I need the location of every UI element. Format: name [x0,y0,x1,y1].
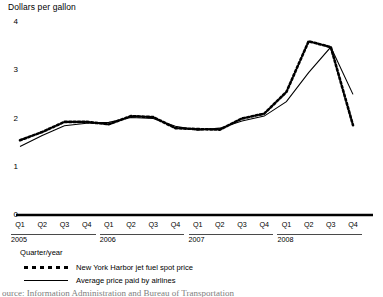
x-axis-tick-q4-2007: Q4 [256,221,272,229]
x-axis-tick-q4-2008: Q4 [345,221,361,229]
x-axis-tick-q1-2005: Q1 [12,221,28,229]
x-axis-tick-q3-2005: Q3 [56,221,72,229]
x-axis-tick-q2-2008: Q2 [301,221,317,229]
x-axis-year-label-2008: 2008 [277,236,293,244]
x-axis-tick-q2-2007: Q2 [212,221,228,229]
x-axis-year-label-2007: 2007 [189,236,205,244]
x-axis-tick-q3-2008: Q3 [323,221,339,229]
x-axis-tick-q3-2007: Q3 [234,221,250,229]
legend-key-dotted [24,266,68,269]
legend-item-spot-price: New York Harbor jet fuel spot price [24,263,324,273]
legend-key-solid [24,280,68,281]
x-axis-tick-q2-2006: Q2 [123,221,139,229]
series-line-airline-price [20,47,353,146]
source-note: ource: Information Administration and Bu… [2,288,381,297]
jet-fuel-price-chart: Dollars per gallon 01234 Q1Q2Q3Q4Q1Q2Q3Q… [0,0,383,297]
x-axis-year-label-2005: 2005 [11,236,27,244]
x-axis-tick-q1-2006: Q1 [101,221,117,229]
x-axis-tick-q2-2005: Q2 [34,221,50,229]
legend-label: Average price paid by airlines [76,276,175,285]
x-axis-tick-q3-2006: Q3 [145,221,161,229]
x-axis-tick-q1-2008: Q1 [278,221,294,229]
x-axis-year-label-2006: 2006 [100,236,116,244]
x-axis-caption: Quarter/year [20,248,63,257]
x-axis-tick-q1-2007: Q1 [190,221,206,229]
legend-item-airline-price: Average price paid by airlines [24,276,324,286]
x-axis-tick-q4-2005: Q4 [79,221,95,229]
legend-label: New York Harbor jet fuel spot price [76,263,193,272]
x-axis-tick-q4-2006: Q4 [167,221,183,229]
